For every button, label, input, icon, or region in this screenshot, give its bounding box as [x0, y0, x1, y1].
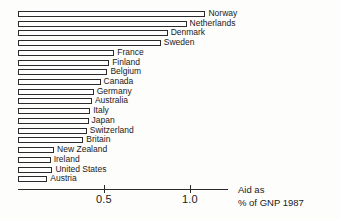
bar — [18, 128, 87, 134]
bar-row: Italy — [18, 108, 90, 114]
bar — [18, 176, 47, 182]
bar-row: New Zealand — [18, 147, 54, 153]
bar-row: Britain — [18, 137, 83, 143]
bar-row: Germany — [18, 89, 94, 95]
bar-label: Sweden — [164, 37, 195, 48]
x-axis-tick-label: 1.0 — [182, 193, 198, 205]
bar — [18, 69, 107, 75]
bar-label: Austria — [50, 173, 76, 184]
bar — [18, 79, 101, 85]
bar-row: United States — [18, 167, 52, 173]
axis-caption: Aid as % of GNP 1987 — [238, 184, 304, 209]
bar — [18, 157, 51, 163]
bar — [18, 30, 168, 36]
bar-row: Denmark — [18, 30, 168, 36]
bar — [18, 147, 54, 153]
bar-row: Belgium — [18, 69, 107, 75]
bar — [18, 50, 114, 56]
bar — [18, 60, 109, 66]
bar-row: Australia — [18, 98, 92, 104]
bar-row: Norway — [18, 11, 205, 17]
axis-caption-line-2: % of GNP 1987 — [238, 197, 304, 210]
x-axis-tick-label: 0.5 — [96, 193, 112, 205]
bar — [18, 40, 161, 46]
bar — [18, 89, 94, 95]
axis-caption-line-1: Aid as — [238, 184, 304, 197]
bar-row: Finland — [18, 60, 109, 66]
x-axis-line — [18, 189, 228, 190]
bar-row: Sweden — [18, 40, 161, 46]
bar — [18, 167, 52, 173]
aid-gnp-bar-chart: NorwayNetherlandsDenmarkSwedenFranceFinl… — [0, 0, 341, 220]
bar — [18, 11, 205, 17]
bar — [18, 98, 92, 104]
bar-row: Ireland — [18, 157, 51, 163]
bar — [18, 108, 90, 114]
bar-row: Switzerland — [18, 128, 87, 134]
bar — [18, 21, 187, 27]
bar-row: Canada — [18, 79, 101, 85]
bar-row: Japan — [18, 118, 89, 124]
bar-row: Netherlands — [18, 21, 187, 27]
bar-row: Austria — [18, 176, 47, 182]
bar — [18, 137, 83, 143]
bar — [18, 118, 89, 124]
bar-row: France — [18, 50, 114, 56]
